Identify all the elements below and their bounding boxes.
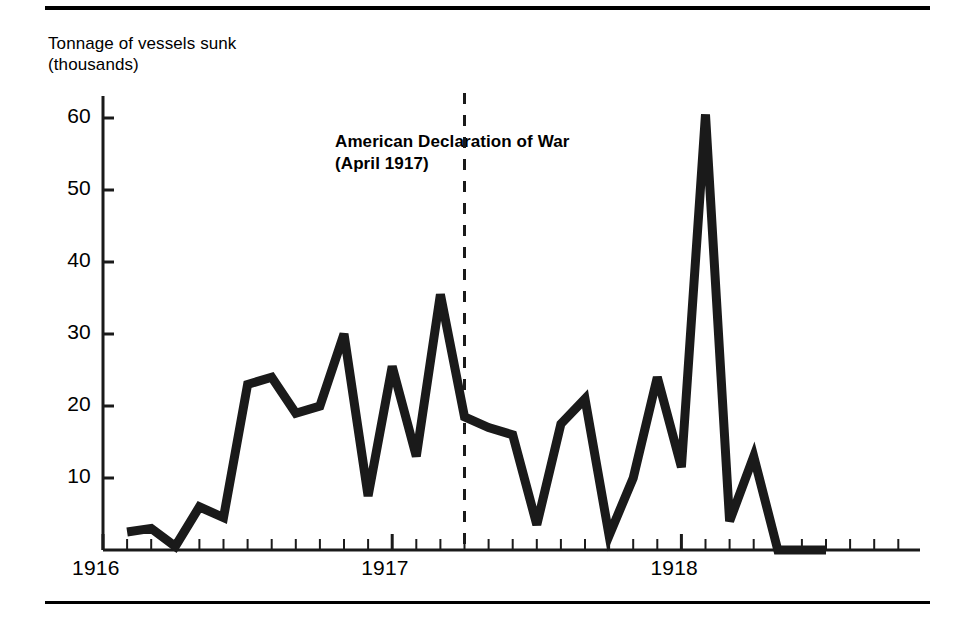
y-tick-label-30: 30 bbox=[45, 320, 91, 344]
data-line-series bbox=[127, 114, 826, 550]
figure-container: Tonnage of vessels sunk (thousands) Amer… bbox=[0, 0, 975, 625]
tick-marks-group bbox=[103, 118, 898, 550]
y-tick-label-50: 50 bbox=[45, 176, 91, 200]
y-tick-label-10: 10 bbox=[45, 464, 91, 488]
x-tick-label-1916: 1916 bbox=[72, 556, 120, 580]
y-tick-label-60: 60 bbox=[45, 104, 91, 128]
x-tick-label-1917: 1917 bbox=[361, 556, 409, 580]
y-tick-label-20: 20 bbox=[45, 392, 91, 416]
x-tick-label-1918: 1918 bbox=[650, 556, 698, 580]
y-tick-label-40: 40 bbox=[45, 248, 91, 272]
chart-plot bbox=[0, 0, 975, 625]
